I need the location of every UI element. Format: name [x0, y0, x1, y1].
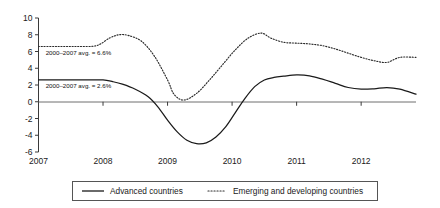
y-tick-label: 6 — [28, 47, 33, 57]
annotations-layer: 2000–2007 avg. = 6.6%2000–2007 avg. = 2.… — [46, 49, 112, 90]
line-chart: 1086420-2-4-6 200720082009201020112012 2… — [0, 0, 440, 208]
y-tick-label: 10 — [23, 13, 33, 23]
x-tick-label: 2008 — [94, 156, 113, 166]
legend-label-advanced-countries: Advanced countries — [110, 186, 183, 196]
x-tick-label: 2009 — [158, 156, 177, 166]
x-tick-label: 2012 — [352, 156, 371, 166]
y-tick-label: 4 — [28, 63, 33, 73]
legend-label-emerging-developing-countries: Emerging and developing countries — [233, 186, 363, 196]
y-tick-label: -2 — [25, 114, 33, 124]
x-tick-label: 2011 — [287, 156, 306, 166]
y-tick-label: 8 — [28, 30, 33, 40]
x-tick-label: 2007 — [29, 156, 48, 166]
x-tick-label: 2010 — [223, 156, 242, 166]
chart-container: 1086420-2-4-6 200720082009201020112012 2… — [0, 0, 440, 208]
annotation-label-0: 2000–2007 avg. = 6.6% — [46, 49, 112, 56]
x-axis-labels: 200720082009201020112012 — [29, 156, 371, 166]
y-axis-ticks: 1086420-2-4-6 — [23, 13, 38, 157]
y-tick-label: 0 — [28, 97, 33, 107]
y-tick-label: -4 — [25, 130, 33, 140]
legend: Advanced countries Emerging and developi… — [73, 182, 378, 201]
series-line-emerging-and-developing-countries — [39, 33, 417, 100]
y-axis: 1086420-2-4-6 — [23, 13, 38, 157]
annotation-label-1: 2000–2007 avg. = 2.6% — [46, 82, 112, 89]
y-tick-label: 2 — [28, 80, 33, 90]
